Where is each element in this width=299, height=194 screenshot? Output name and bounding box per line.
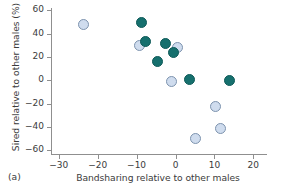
x-tick-label: −30 <box>39 161 79 170</box>
data-point-light <box>78 19 89 30</box>
x-tick-mark <box>253 155 254 159</box>
x-tick-mark <box>98 155 99 159</box>
x-tick-mark <box>59 155 60 159</box>
x-tick-mark <box>137 155 138 159</box>
y-tick-label: 60 <box>0 5 44 14</box>
x-tick-label: −10 <box>117 161 157 170</box>
x-tick-mark <box>176 155 177 159</box>
panel-label: (a) <box>8 171 21 182</box>
x-tick-label: 20 <box>233 161 273 170</box>
data-point-dark <box>152 56 163 67</box>
x-tick-mark <box>214 155 215 159</box>
data-point-light <box>190 133 201 144</box>
y-tick-label: −60 <box>0 145 44 154</box>
data-point-light <box>166 76 177 87</box>
y-tick-label: 40 <box>0 29 44 38</box>
x-tick-label: −20 <box>78 161 118 170</box>
x-axis-label: Bandsharing relative to other males <box>51 172 265 183</box>
x-tick-label: 10 <box>194 161 234 170</box>
x-axis-line <box>51 154 267 155</box>
x-tick-label: 0 <box>156 161 196 170</box>
y-tick-label: −20 <box>0 99 44 108</box>
data-point-light <box>215 123 226 134</box>
scatter-plot-figure: Sired relative to other males (%) 604020… <box>0 0 299 194</box>
data-point-dark <box>136 17 147 28</box>
y-tick-label: 20 <box>0 52 44 61</box>
y-tick-label: 0 <box>0 75 44 84</box>
data-point-dark <box>224 75 235 86</box>
y-tick-label: −40 <box>0 122 44 131</box>
data-point-dark <box>140 36 151 47</box>
